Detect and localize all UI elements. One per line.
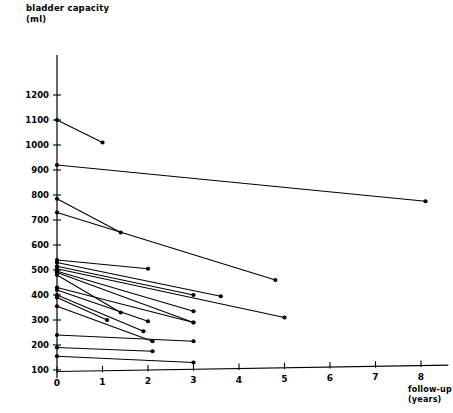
data-point-marker [55,163,59,167]
data-point-marker [55,304,59,308]
y-tick-label: 900 [31,165,49,175]
data-point-marker [146,267,150,271]
series-patient-17 [55,333,196,343]
data-point-marker [55,295,59,299]
y-tick-label: 100 [31,365,49,375]
chart-plot-area: 100200300400500600700800900100011001200 … [0,0,453,413]
series-line [57,269,285,318]
x-tick-label: 1 [99,377,105,387]
data-point-marker [55,288,59,292]
data-point-marker [191,309,195,313]
data-point-marker [100,140,104,144]
series-patient-01 [55,118,105,145]
data-point-marker [191,360,195,364]
data-point-marker [55,210,59,214]
series-patient-10 [55,270,196,324]
series-patient-02 [55,163,428,203]
x-tick-label: 6 [327,373,333,383]
x-tick-label: 8 [418,372,424,382]
data-point-marker [423,199,427,203]
x-tick-label: 4 [236,375,242,385]
x-tick-label: 3 [190,375,196,385]
series-patient-19 [55,354,196,364]
data-point-marker [146,319,150,323]
data-point-marker [282,315,286,319]
series-patient-18 [55,345,155,353]
data-point-marker [219,294,223,298]
x-axis: 012345678 [54,361,448,388]
y-tick-label: 1000 [25,140,49,150]
data-point-marker [191,339,195,343]
y-tick-label: 500 [31,265,49,275]
data-point-marker [55,354,59,358]
x-tick-label: 0 [54,378,60,388]
data-point-marker [141,329,145,333]
data-point-marker [105,318,109,322]
series-line [57,356,194,362]
y-tick-label: 200 [31,340,49,350]
series-line [57,213,275,281]
y-tick-label: 400 [31,290,49,300]
series-line [57,290,148,321]
y-tick-label: 800 [31,190,49,200]
data-point-marker [191,320,195,324]
y-axis: 100200300400500600700800900100011001200 [25,55,61,378]
chart-figure: bladder capacity (ml) 100200300400500600… [0,0,453,413]
y-tick-label: 1200 [25,90,49,100]
y-tick-label: 1100 [25,115,49,125]
series-line [57,165,426,201]
series-line [57,335,194,341]
data-point-marker [55,260,59,264]
series-patient-04 [55,210,278,282]
data-point-marker [273,278,277,282]
x-tick-label: 2 [145,376,151,386]
y-tick-label: 600 [31,240,49,250]
x-axis-title: follow-up (years) [408,385,452,405]
series-line [57,120,103,143]
data-point-marker [150,349,154,353]
y-tick-label: 300 [31,315,49,325]
data-point-marker [55,333,59,337]
y-tick-label: 700 [31,215,49,225]
x-tick-label: 7 [372,372,378,382]
x-tick-label: 5 [281,374,287,384]
data-point-marker [191,293,195,297]
series-line [57,348,153,352]
data-point-marker [55,345,59,349]
data-point-marker [55,118,59,122]
series-patient-06 [55,260,223,298]
data-point-marker [55,273,59,277]
data-point-marker [55,197,59,201]
series-patient-03 [55,197,123,235]
data-series-group [55,118,428,365]
series-line [57,260,148,269]
